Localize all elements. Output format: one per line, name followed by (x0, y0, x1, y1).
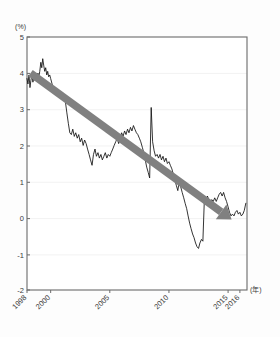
ytick-label-minus1: -1 (17, 251, 24, 260)
ytick-label-5: 5 (20, 33, 24, 42)
ytick-label-1: 1 (20, 178, 24, 187)
xtick-label-2005: 2005 (93, 293, 111, 311)
xtick-label-1998: 1998 (10, 293, 28, 311)
chart-canvas: 5 4 3 2 1 0 -1 -2 (%) 199820002005201020… (0, 0, 280, 337)
ytick-label-0: 0 (20, 214, 24, 223)
xtick-label-2010: 2010 (152, 293, 170, 311)
chart-figure: 5 4 3 2 1 0 -1 -2 (%) 199820002005201020… (0, 0, 280, 337)
x-axis-unit-label: (年) (250, 285, 262, 294)
xtick-label-2016: 2016 (223, 293, 241, 311)
y-axis-tick-labels: 5 4 3 2 1 0 -1 -2 (17, 33, 24, 295)
xtick-label-2000: 2000 (34, 293, 52, 311)
y-axis-unit-label: (%) (15, 23, 26, 31)
plot-background (27, 37, 247, 290)
ytick-label-2: 2 (20, 142, 24, 151)
ytick-label-3: 3 (20, 105, 24, 114)
ytick-label-4: 4 (20, 69, 24, 78)
x-axis-tick-labels: 199820002005201020152016 (10, 293, 241, 311)
